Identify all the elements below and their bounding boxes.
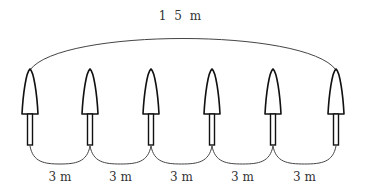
tree-icon <box>204 69 220 145</box>
tree-spacing-diagram: 1 5 m 3 m3 m3 m3 m3 m <box>0 0 366 196</box>
spacing-label: 3 m <box>293 170 316 184</box>
spacing-label: 3 m <box>170 170 193 184</box>
spacing-arc <box>90 146 151 164</box>
tree-icon <box>22 69 38 145</box>
tree-icon <box>265 69 281 145</box>
spacing-arcs-group: 3 m3 m3 m3 m3 m <box>30 146 336 184</box>
tree-icon <box>328 69 344 145</box>
spacing-label: 3 m <box>231 170 254 184</box>
tree-icon <box>82 69 98 145</box>
trees-group <box>22 69 344 145</box>
spacing-arc <box>30 146 90 164</box>
tree-icon <box>143 69 159 145</box>
spacing-arc <box>151 146 212 164</box>
spacing-arc <box>212 146 273 164</box>
spacing-arc <box>273 146 336 164</box>
spacing-label: 3 m <box>109 170 132 184</box>
total-length-label: 1 5 m <box>159 9 203 23</box>
spacing-label: 3 m <box>49 170 72 184</box>
total-length-arc <box>30 39 336 71</box>
